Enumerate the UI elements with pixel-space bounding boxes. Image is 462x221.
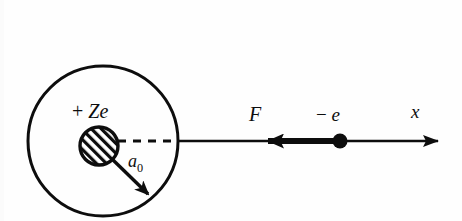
nucleus-charge-label: + Ze [72, 101, 108, 121]
bohr-atom-figure: + Ze a0 F − e x [0, 0, 462, 221]
electron-dot [333, 134, 348, 149]
nucleus-charge-symbol: Ze [88, 100, 108, 122]
electron-charge-sign: − [316, 104, 327, 125]
electron-charge-symbol: e [331, 104, 339, 125]
x-axis-label: x [411, 102, 419, 121]
nucleus-charge-sign: + [72, 100, 83, 122]
bohr-radius-label: a0 [128, 152, 143, 174]
electron-charge-label: − e [316, 105, 340, 124]
diagram-canvas [0, 0, 462, 221]
force-label: F [249, 104, 261, 124]
bohr-radius-subscript: 0 [137, 161, 143, 175]
nucleus-circle [80, 127, 118, 165]
bohr-radius-symbol: a [128, 151, 137, 171]
